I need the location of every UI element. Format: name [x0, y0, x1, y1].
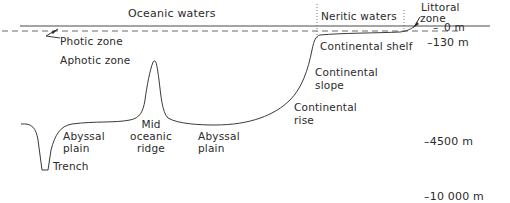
oceanic-waters-label: Oceanic waters: [128, 8, 216, 19]
abyssal-plain-right-label-2: plain: [198, 143, 225, 154]
aphotic-zone-label: Aphotic zone: [60, 55, 131, 66]
abyssal-plain-right-label-1: Abyssal: [198, 131, 240, 142]
continental-slope-label-1: Continental: [315, 67, 378, 78]
mid-ridge-label-2: oceanic: [126, 131, 176, 142]
ocean-zones-diagram: Oceanic waters Neritic waters Littoral z…: [0, 0, 510, 203]
abyssal-plain-left-label-1: Abyssal: [63, 131, 105, 142]
depth-4500m-label: –4500 m: [424, 136, 473, 147]
abyssal-plain-left-label-2: plain: [63, 143, 90, 154]
continental-slope-label-2: slope: [315, 80, 344, 91]
depth-0m-label: 0 m: [444, 22, 465, 33]
depth-marker-dash: –: [433, 22, 438, 33]
mid-ridge-label-3: ridge: [126, 143, 176, 154]
mid-ridge-label-1: Mid: [126, 119, 176, 130]
trench-label: Trench: [53, 161, 89, 172]
depth-130m-label: –130 m: [427, 37, 469, 48]
continental-rise-label-2: rise: [294, 115, 314, 126]
continental-rise-label-1: Continental: [294, 102, 357, 113]
continental-shelf-label: Continental shelf: [320, 41, 413, 52]
depth-10000m-label: –10 000 m: [424, 191, 484, 202]
neritic-waters-label: Neritic waters: [321, 11, 397, 22]
photic-zone-label: Photic zone: [60, 36, 123, 47]
